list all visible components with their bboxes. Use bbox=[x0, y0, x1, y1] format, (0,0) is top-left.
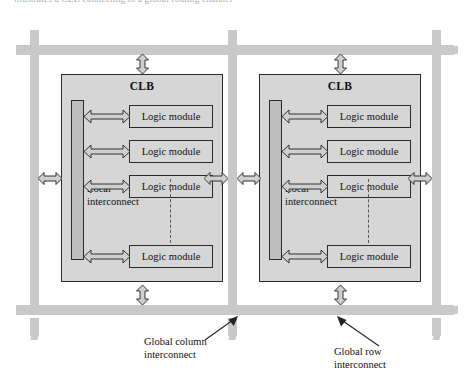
clb-title: CLB bbox=[62, 80, 222, 92]
local-to-logic-arrow bbox=[282, 144, 328, 159]
clb-to-column-arrow-far-left bbox=[38, 171, 62, 186]
local-to-logic-arrow bbox=[84, 179, 130, 194]
local-interconnect-bar[interactable] bbox=[269, 100, 282, 260]
logic-module-continuation-dashes bbox=[368, 179, 369, 243]
local-to-logic-arrow bbox=[84, 144, 130, 159]
clb-to-column-arrow-far-right bbox=[408, 171, 432, 186]
global-row-callout-line1: Global row bbox=[334, 346, 386, 359]
logic-module[interactable]: Logic module bbox=[327, 105, 411, 128]
logic-module[interactable]: Logic module bbox=[129, 175, 213, 198]
clb-to-row-arrow-bottom-right bbox=[333, 285, 348, 305]
local-to-logic-arrow bbox=[282, 249, 328, 264]
global-row-leader-line bbox=[335, 316, 379, 346]
global-row-interconnect-bottom bbox=[16, 305, 454, 315]
clb-to-column-arrow-mid-right bbox=[237, 171, 261, 186]
clb-title: CLB bbox=[260, 80, 420, 92]
global-row-callout-line2: interconnect bbox=[334, 359, 386, 372]
clb-to-row-arrow-top-right bbox=[333, 54, 348, 74]
local-to-logic-arrow bbox=[282, 179, 328, 194]
clb-right[interactable]: CLB Local interconnect Logic module Logi… bbox=[259, 74, 421, 282]
global-column-leader-line bbox=[205, 316, 239, 340]
global-row-interconnect-callout: Global row interconnect bbox=[334, 346, 386, 371]
logic-module[interactable]: Logic module bbox=[327, 245, 411, 268]
local-to-logic-arrow bbox=[84, 249, 130, 264]
clb-to-row-arrow-top-left bbox=[135, 54, 150, 74]
global-column-interconnect-right bbox=[432, 318, 441, 336]
logic-module[interactable]: Logic module bbox=[129, 105, 213, 128]
local-interconnect-bar[interactable] bbox=[71, 100, 84, 260]
global-column-callout-line1: Global column bbox=[144, 336, 207, 349]
logic-module[interactable]: Logic module bbox=[129, 245, 213, 268]
logic-module[interactable]: Logic module bbox=[129, 140, 213, 163]
page-cutoff-caption: illustrates a CLB connecting to a global… bbox=[14, 0, 232, 4]
global-column-interconnect-mid bbox=[228, 54, 237, 306]
global-column-interconnect-left bbox=[30, 318, 39, 336]
global-column-interconnect-callout: Global column interconnect bbox=[144, 336, 207, 361]
global-column-callout-line2: interconnect bbox=[144, 349, 207, 362]
clb-to-row-arrow-bottom-left bbox=[135, 285, 150, 305]
global-row-interconnect-top bbox=[16, 45, 454, 55]
local-to-logic-arrow bbox=[84, 109, 130, 124]
logic-module[interactable]: Logic module bbox=[327, 140, 411, 163]
logic-module-continuation-dashes bbox=[170, 179, 171, 243]
clb-left[interactable]: CLB Local interconnect Logic module Logi… bbox=[61, 74, 223, 282]
clb-to-column-arrow-mid-left bbox=[204, 171, 228, 186]
logic-module[interactable]: Logic module bbox=[327, 175, 411, 198]
global-column-interconnect-right bbox=[432, 54, 441, 306]
local-to-logic-arrow bbox=[282, 109, 328, 124]
fpga-architecture-diagram: illustrates a CLB connecting to a global… bbox=[0, 0, 472, 379]
